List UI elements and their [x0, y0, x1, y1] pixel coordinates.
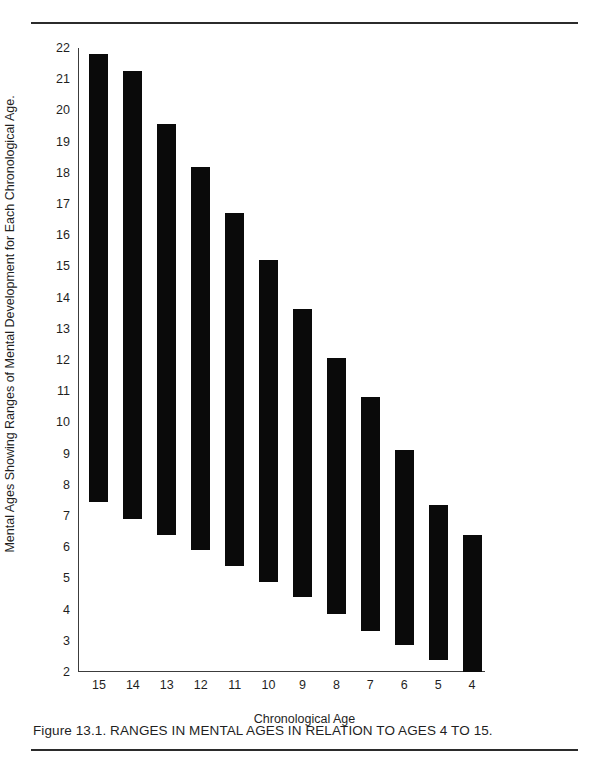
y-tick-label: 9 — [63, 447, 70, 460]
y-tick-label: 11 — [57, 385, 70, 398]
y-tick-label: 18 — [56, 167, 70, 180]
y-tick-label: 20 — [56, 104, 70, 117]
x-tick-label: 10 — [262, 679, 276, 692]
page-rule-top — [31, 22, 578, 24]
x-tick-label: 4 — [469, 679, 476, 692]
x-tick-label: 9 — [299, 679, 306, 692]
x-tick-label: 5 — [435, 679, 442, 692]
y-tick-label: 10 — [56, 416, 70, 429]
bar-age-8 — [327, 358, 346, 614]
x-tick-label: 8 — [333, 679, 340, 692]
x-tick-label: 6 — [401, 679, 408, 692]
bar-age-9 — [293, 309, 312, 598]
y-tick-label: 8 — [63, 479, 70, 492]
bar-age-14 — [123, 71, 142, 519]
y-tick-label: 16 — [56, 229, 70, 242]
y-tick-label: 4 — [63, 603, 70, 616]
bar-age-5 — [429, 505, 448, 659]
y-tick-label: 22 — [56, 42, 70, 55]
y-tick-label: 19 — [56, 135, 70, 148]
y-tick-label: 13 — [56, 323, 70, 336]
y-axis-title: Mental Ages Showing Ranges of Mental Dev… — [3, 54, 17, 594]
bar-group — [78, 48, 485, 672]
bar-age-10 — [259, 260, 278, 581]
x-tick-label: 7 — [367, 679, 374, 692]
bar-age-12 — [191, 167, 210, 551]
y-tick-label: 14 — [56, 291, 70, 304]
y-tick-label: 2 — [63, 666, 70, 679]
y-tick-label: 12 — [56, 354, 70, 367]
page-rule-bottom — [31, 749, 578, 751]
x-tick-label: 12 — [194, 679, 208, 692]
y-tick-label: 17 — [56, 198, 70, 211]
bar-age-4 — [463, 535, 482, 672]
y-tick-label: 5 — [63, 572, 70, 585]
x-tick-label: 11 — [228, 679, 241, 692]
x-tick-label: 14 — [126, 679, 140, 692]
x-tick-label: 13 — [160, 679, 174, 692]
y-tick-label: 3 — [63, 635, 70, 648]
chart-plot-area: 2221201918171615141312111098765432 15141… — [78, 48, 485, 672]
bar-age-11 — [225, 213, 244, 566]
figure-page: 2221201918171615141312111098765432 15141… — [0, 0, 609, 766]
bar-age-13 — [157, 124, 176, 534]
bar-age-15 — [89, 54, 108, 502]
y-tick-label: 15 — [56, 260, 70, 273]
figure-caption: Figure 13.1. RANGES IN MENTAL AGES IN RE… — [33, 723, 493, 738]
bar-age-7 — [361, 397, 380, 631]
y-tick-label: 6 — [63, 541, 70, 554]
bar-age-6 — [395, 450, 414, 645]
y-tick-label: 21 — [56, 73, 70, 86]
x-tick-label: 15 — [92, 679, 106, 692]
y-tick-label: 7 — [63, 510, 70, 523]
